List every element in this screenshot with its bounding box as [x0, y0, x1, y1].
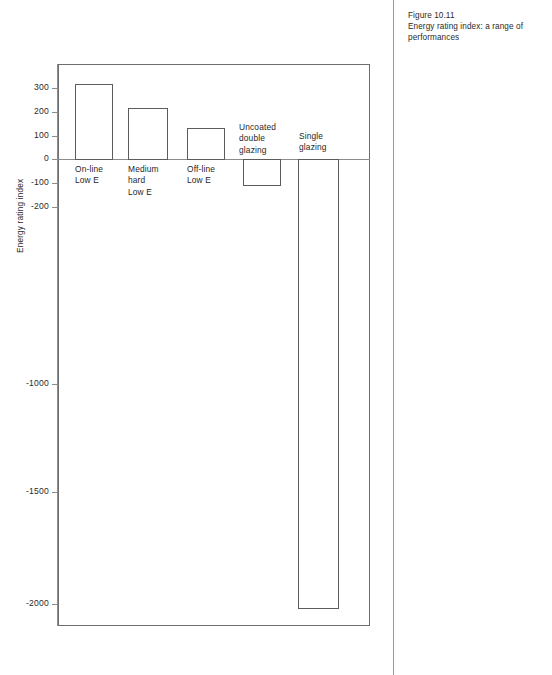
y-tick-label: -1500 — [26, 486, 49, 497]
bar-label-medium-hard-low-e: Medium hard Low E — [128, 164, 159, 198]
y-tick-mark — [52, 112, 58, 113]
y-tick-label: 0 — [44, 153, 49, 164]
bar-label-on-line-low-e: On-line Low E — [75, 164, 103, 187]
bar-label-single-glazing: Single glazing — [299, 131, 327, 154]
y-tick-label: -1000 — [26, 378, 49, 389]
bar-label-uncoated-double-glazing: Uncoated double glazing — [239, 122, 276, 156]
bar-medium-hard-low-e — [128, 108, 168, 160]
y-tick-mark — [52, 159, 58, 160]
y-tick-mark — [52, 136, 58, 137]
y-tick-label: -100 — [31, 177, 49, 188]
y-tick-label: -2000 — [26, 598, 49, 609]
y-axis-title: Energy rating index — [16, 123, 25, 253]
bar-uncoated-double-glazing — [243, 159, 281, 186]
y-tick-label: -200 — [31, 201, 49, 212]
y-tick-mark — [52, 604, 58, 605]
y-tick-mark — [52, 207, 58, 208]
figure-chart-area: Energy rating index 3002001000-100-200-1… — [0, 0, 393, 675]
figure-caption: Figure 10.11 Energy rating index: a rang… — [408, 10, 544, 44]
y-axis-spine — [57, 64, 58, 626]
y-tick-label: 300 — [34, 82, 49, 93]
y-tick-mark — [52, 384, 58, 385]
bar-on-line-low-e — [75, 84, 113, 160]
page-divider-rule — [393, 0, 394, 675]
figure-number: Figure 10.11 — [408, 10, 544, 21]
y-tick-label: 100 — [34, 130, 49, 141]
y-tick-label: 200 — [34, 106, 49, 117]
y-tick-mark — [52, 183, 58, 184]
bar-label-off-line-low-e: Off-line Low E — [187, 164, 215, 187]
bar-single-glazing — [298, 159, 339, 609]
bar-off-line-low-e — [187, 128, 225, 160]
figure-caption-text: Energy rating index: a range of performa… — [408, 21, 544, 43]
y-tick-mark — [52, 492, 58, 493]
y-tick-mark — [52, 88, 58, 89]
